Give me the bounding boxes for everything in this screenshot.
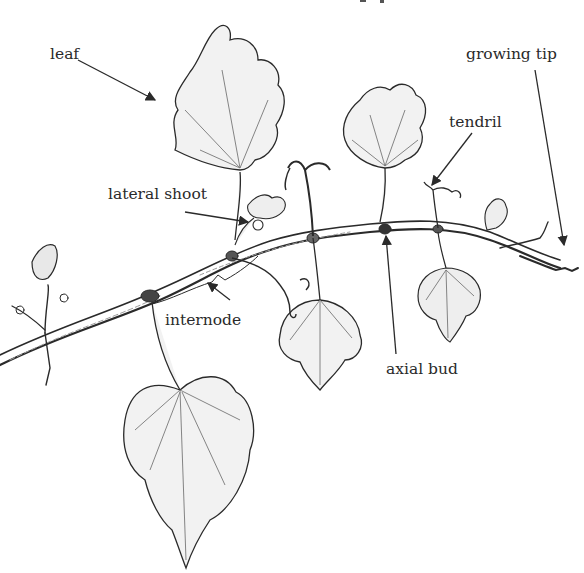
axial-bud-arrow <box>386 236 396 354</box>
upper-right-leaf <box>343 84 425 222</box>
small-leaf-tip <box>485 199 507 230</box>
hanging-leaf-right <box>418 232 480 342</box>
label-axial-bud: axial bud <box>386 362 458 378</box>
lateral-shoot-leaf <box>235 195 285 245</box>
small-leaf-left <box>32 245 57 280</box>
hanging-leaf-center <box>279 238 361 390</box>
label-lateral-shoot: lateral shoot <box>108 187 207 203</box>
tendril-arrow <box>432 133 472 185</box>
label-tendril: tendril <box>449 115 502 131</box>
bottom-leaf <box>124 302 254 568</box>
label-internode: internode <box>165 313 241 329</box>
internode-arrow <box>208 283 230 300</box>
cropped-title <box>360 0 384 3</box>
label-growing-tip: growing tip <box>466 47 557 63</box>
leaf-arrow <box>78 60 155 100</box>
central-tendril <box>285 162 330 237</box>
vine-illustration <box>0 0 584 573</box>
growing-tip-arrow <box>535 70 564 245</box>
grapevine-diagram: leaf growing tip tendril lateral shoot i… <box>0 0 584 573</box>
label-leaf: leaf <box>50 47 79 63</box>
